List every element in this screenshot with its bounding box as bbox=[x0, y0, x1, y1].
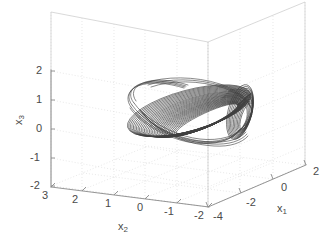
tick-label-x3-1: 1 bbox=[36, 94, 42, 105]
tick-label-x3-0: 0 bbox=[36, 123, 42, 134]
axis-title-x2-base: x bbox=[118, 220, 124, 232]
attractor-trajectory bbox=[122, 74, 258, 147]
figure-container: 2 1 0 -1 -2 3 2 1 0 -1 -2 -4 -2 0 2 x1 x… bbox=[0, 0, 335, 247]
tick-label-x2-neg1: -1 bbox=[164, 206, 174, 217]
axis-line-x1 bbox=[208, 165, 306, 207]
tick-label-x2-0: 0 bbox=[137, 202, 143, 213]
tick-label-x2-1: 1 bbox=[105, 198, 111, 209]
tick-label-x2-3: 3 bbox=[42, 190, 48, 201]
axis-title-x3-base: x bbox=[12, 119, 24, 125]
axis-title-x1-sub: 1 bbox=[283, 207, 287, 216]
tick-label-x3-2: 2 bbox=[36, 65, 42, 76]
tick-label-x3-neg2: -2 bbox=[30, 180, 40, 191]
tick-label-x3-neg1: -1 bbox=[30, 152, 40, 163]
axis-title-x1-base: x bbox=[277, 202, 283, 214]
axis-title-x3-sub: 3 bbox=[17, 115, 26, 119]
tick-marks bbox=[51, 71, 306, 207]
axis-title-x1: x1 bbox=[277, 203, 287, 215]
tick-label-x1-0: 0 bbox=[281, 182, 287, 193]
axis-title-x2: x2 bbox=[118, 221, 128, 233]
tick-label-x1-2: 2 bbox=[313, 166, 319, 177]
axis-title-x2-sub: 2 bbox=[124, 225, 128, 234]
axis-title-x3: x3 bbox=[13, 115, 25, 125]
tick-label-x1-neg4: -4 bbox=[213, 211, 223, 222]
tick-label-x1-neg2: -2 bbox=[246, 197, 256, 208]
tick-label-x2-neg2: -2 bbox=[194, 210, 204, 221]
tick-label-x2-2: 2 bbox=[72, 194, 78, 205]
grid-floor bbox=[51, 146, 305, 207]
